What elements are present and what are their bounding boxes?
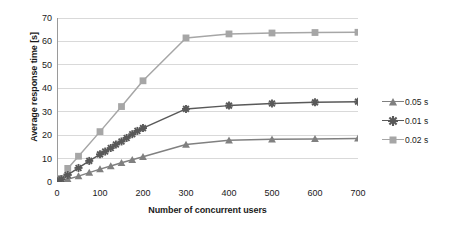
x-tick-label: 600 — [307, 188, 322, 198]
y-tick-label: 0 — [30, 177, 52, 187]
x-tick-label: 0 — [54, 188, 59, 198]
y-tick-label: 50 — [30, 60, 52, 70]
legend-label-2: 0.02 s — [405, 135, 428, 145]
legend-marker-square — [382, 134, 404, 146]
legend-label-1: 0.01 s — [405, 116, 428, 126]
legend-marker-star — [382, 115, 404, 127]
plot-svg — [57, 18, 358, 182]
x-tick-label: 400 — [221, 188, 236, 198]
x-tick-label: 200 — [135, 188, 150, 198]
legend-marker-triangle — [382, 96, 404, 108]
legend-item-0[interactable]: 0.05 s — [382, 92, 453, 111]
legend-item-2[interactable]: 0.02 s — [382, 130, 453, 149]
y-tick-label: 30 — [30, 107, 52, 117]
x-tick-label: 500 — [264, 188, 279, 198]
chart-container: Average response time [s] 01020304050607… — [0, 0, 453, 228]
legend-label-0: 0.05 s — [405, 97, 428, 107]
y-tick-label: 70 — [30, 13, 52, 23]
y-tick-label: 60 — [30, 36, 52, 46]
plot-area: 0102030405060700100200300400500600700 — [57, 18, 358, 182]
y-tick-label: 10 — [30, 154, 52, 164]
legend-item-1[interactable]: 0.01 s — [382, 111, 453, 130]
x-tick-label: 300 — [178, 188, 193, 198]
x-axis-title: Number of concurrent users — [57, 205, 358, 215]
x-tick-label: 100 — [92, 188, 107, 198]
y-tick-label: 40 — [30, 83, 52, 93]
chart-legend: 0.05 s 0.01 s 0.02 s — [382, 92, 453, 149]
x-tick-label: 700 — [350, 188, 365, 198]
y-tick-label: 20 — [30, 130, 52, 140]
